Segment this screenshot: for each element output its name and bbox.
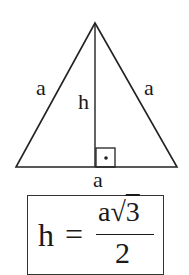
base-label: a [93, 169, 103, 191]
height-label: h [78, 91, 89, 113]
formula-denominator: 2 [115, 238, 130, 268]
formula-box: h = a√3 2 [27, 195, 164, 275]
formula-numerator: a√3 [98, 198, 140, 226]
sqrt-icon: √ [110, 196, 125, 227]
right-angle-dot [104, 156, 108, 160]
numerator-radicand: 3 [126, 196, 140, 227]
side-label-right: a [144, 77, 154, 99]
numerator-variable: a [98, 196, 110, 227]
formula-equals: = [65, 218, 83, 250]
formula-lhs: h [38, 219, 54, 251]
side-label-left: a [36, 77, 46, 99]
fraction-bar [96, 234, 154, 235]
